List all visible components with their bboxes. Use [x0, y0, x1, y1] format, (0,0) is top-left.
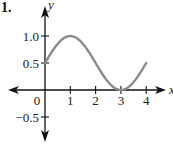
sine-curve [45, 36, 146, 90]
y-axis-label: y [46, 0, 54, 12]
y-tick-label: −0.5 [15, 110, 39, 125]
x-tick-label: 1 [67, 93, 74, 108]
x-tick-label: 2 [92, 93, 99, 108]
y-tick-label: 1.0 [23, 29, 39, 44]
x-tick-label: 0 [34, 93, 41, 108]
x-axis-label: x [168, 82, 173, 97]
x-tick-label: 4 [143, 93, 150, 108]
curve [45, 36, 146, 90]
y-tick-label: 0.5 [23, 56, 39, 71]
x-tick-label: 3 [118, 93, 125, 108]
sine-graph: 012341.00.5−0.5 yx [0, 0, 173, 147]
